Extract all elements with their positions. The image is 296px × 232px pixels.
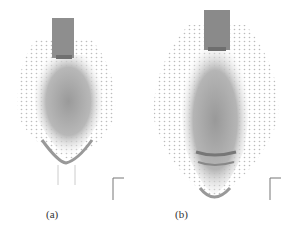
- panel-b-simulation-image: [148, 0, 296, 232]
- caption-b: (b): [175, 208, 188, 220]
- axis-indicator-a: [0, 0, 148, 232]
- panel-a-simulation-image: [0, 0, 148, 232]
- axis-indicator-b: [148, 0, 296, 232]
- caption-a: (a): [46, 208, 58, 220]
